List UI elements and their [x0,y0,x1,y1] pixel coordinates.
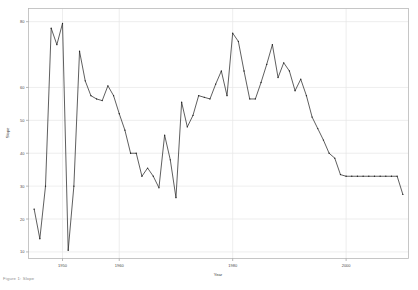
data-point [334,158,335,159]
data-point [141,176,142,177]
data-point [221,70,222,71]
data-point [277,77,278,78]
data-point [147,167,148,168]
y-tick-label: 30 [20,184,25,189]
y-tick-label: 80 [20,19,25,24]
data-point [397,176,398,177]
data-point [45,185,46,186]
data-point [124,130,125,131]
y-tick-label: 20 [20,217,25,222]
data-point [300,79,301,80]
data-point [107,85,108,86]
data-point [68,250,69,251]
data-point [379,176,380,177]
x-tick-label: 1960 [115,263,125,268]
data-point [294,90,295,91]
data-point [272,44,273,45]
data-point [232,33,233,34]
data-point [90,95,91,96]
data-point [255,98,256,99]
data-point [351,176,352,177]
y-tick-label: 10 [20,249,25,254]
y-tick-label: 40 [20,151,25,156]
data-point [317,128,318,129]
data-point [260,82,261,83]
y-axis-title: Slope [5,127,10,138]
data-point [79,51,80,52]
data-point [328,153,329,154]
x-tick-label: 1950 [58,263,68,268]
data-point [136,153,137,154]
y-tick-label: 60 [20,85,25,90]
data-point [249,98,250,99]
data-point [362,176,363,177]
data-point [266,64,267,65]
data-point [198,95,199,96]
data-point [385,176,386,177]
data-point [113,95,114,96]
data-point [289,70,290,71]
data-point [215,84,216,85]
data-point [306,95,307,96]
data-point [323,139,324,140]
data-point [96,98,97,99]
data-point [238,41,239,42]
x-tick-label: 2000 [342,263,352,268]
data-point [226,95,227,96]
data-point [34,209,35,210]
data-point [51,28,52,29]
data-point [283,62,284,63]
data-point [368,176,369,177]
slope-vs-year-line-chart: 10203040506080 1950196019802000 Slope Ye… [0,0,418,290]
data-point [153,176,154,177]
data-point [209,98,210,99]
data-point [164,134,165,135]
data-point [311,116,312,117]
data-point [73,185,74,186]
data-point [119,113,120,114]
data-point [187,126,188,127]
data-point [102,100,103,101]
data-point [340,174,341,175]
data-point [357,176,358,177]
data-point [402,194,403,195]
x-tick-label: 1980 [228,263,238,268]
data-point [170,159,171,160]
data-point [345,176,346,177]
data-point [175,197,176,198]
chart-figure: 10203040506080 1950196019802000 Slope Ye… [0,0,418,290]
data-point [85,80,86,81]
data-point [204,97,205,98]
x-axis-title: Year [214,272,223,277]
data-point [243,70,244,71]
data-point [374,176,375,177]
data-point [62,23,63,24]
y-tick-label: 50 [20,118,25,123]
data-point [130,153,131,154]
data-point [39,238,40,239]
figure-caption: Figure 1: Slope [3,276,34,281]
data-point [181,102,182,103]
data-point [158,187,159,188]
data-point [56,44,57,45]
data-point [391,176,392,177]
data-point [192,115,193,116]
